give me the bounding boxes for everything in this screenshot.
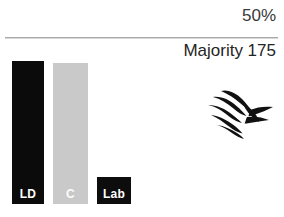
bird-of-liberty-icon xyxy=(198,84,274,140)
bar-label-lab: Lab xyxy=(103,188,125,204)
bar-ld: LD xyxy=(12,61,44,204)
bar-c: C xyxy=(53,63,88,204)
bar-label-c: C xyxy=(66,188,75,204)
bar-label-ld: LD xyxy=(20,188,36,204)
bar-lab: Lab xyxy=(97,177,131,204)
vote-share-bar-chart: 50% Majority 175 LD C Lab xyxy=(0,0,284,217)
